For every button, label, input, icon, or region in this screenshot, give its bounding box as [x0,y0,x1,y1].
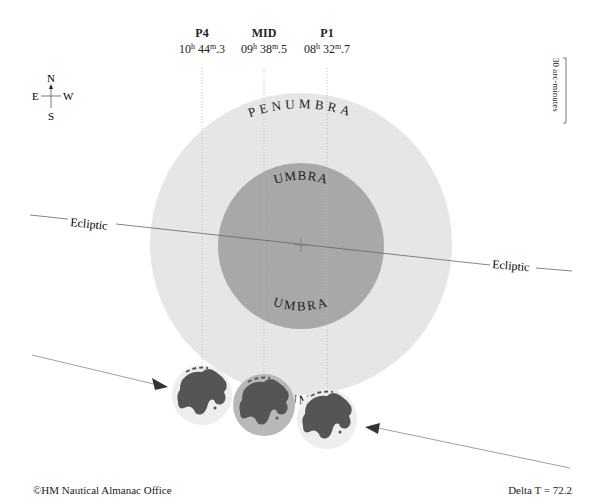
compass-north: N [47,72,55,84]
copyright-text: ©HM Nautical Almanac Office [33,484,172,496]
moon-mid [233,374,295,436]
compass-west: W [63,90,74,102]
contact-p1: P1 08h 32m.7 [287,27,367,56]
delta-t-text: Delta T = 72.2 [508,484,572,496]
moon-path-line-left [32,355,158,385]
ecliptic-line-left [30,215,68,219]
scale-label: 30 arc-minutes [551,58,561,112]
moon-path-arrow-right-icon [365,423,380,434]
moon-path-arrow-left-icon [152,378,168,390]
compass-east: E [32,90,39,102]
moon-p1 [297,389,357,449]
ecliptic-label-right: Ecliptic [492,257,530,274]
north-arrow-icon [49,84,53,89]
contact-p1-name: P1 [287,27,367,40]
compass: N S E W [32,72,74,122]
contact-p1-time: 08h 32m.7 [287,40,367,56]
ecliptic-line-right [536,268,572,271]
ecliptic-label-left: Ecliptic [70,215,109,233]
eclipse-diagram: Ecliptic Ecliptic PENUMBRA UMBRA UMBRA P… [0,0,602,504]
moon-path-line-right [378,428,570,468]
moon-p4 [172,365,232,425]
compass-south: S [48,110,54,122]
